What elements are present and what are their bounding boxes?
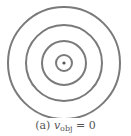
caption-subscript: obj (60, 124, 72, 133)
caption-label: (a) (35, 119, 50, 132)
source-point (62, 61, 65, 64)
figure-caption: (a) vobj = 0 (0, 119, 131, 133)
concentric-wavefronts-diagram (0, 0, 131, 118)
caption-relation: = 0 (76, 119, 96, 132)
